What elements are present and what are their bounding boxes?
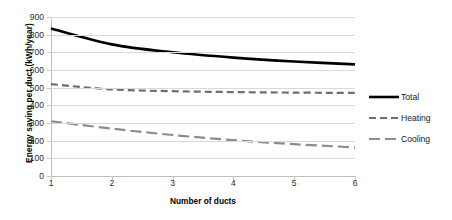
y-tick-label: 400 <box>30 100 44 110</box>
legend-swatch-icon <box>369 113 399 123</box>
line-chart: Energy saving per duct (kWh/year) 010020… <box>0 0 452 220</box>
legend-item-cooling[interactable]: Cooling <box>369 128 452 149</box>
x-tick-label: 2 <box>109 178 114 188</box>
y-tick-label: 500 <box>30 83 44 93</box>
gridline <box>51 123 355 124</box>
gridline <box>51 141 355 142</box>
y-tickmark <box>47 52 51 53</box>
gridline <box>51 70 355 71</box>
y-tick-label: 700 <box>30 47 44 57</box>
legend-label: Total <box>401 92 419 102</box>
gridline <box>51 17 355 18</box>
plot-area <box>51 17 355 176</box>
y-tickmark <box>47 88 51 89</box>
y-tickmark <box>47 35 51 36</box>
y-tick-label: 200 <box>30 136 44 146</box>
gridline <box>51 158 355 159</box>
y-tickmark <box>47 105 51 106</box>
y-tickmark <box>47 123 51 124</box>
y-tickmark <box>47 158 51 159</box>
y-tick-label: 800 <box>30 30 44 40</box>
legend-swatch-icon <box>369 92 399 102</box>
y-tick-label: 600 <box>30 65 44 75</box>
legend-item-heating[interactable]: Heating <box>369 107 452 128</box>
y-tickmark <box>47 17 51 18</box>
legend-swatch-icon <box>369 134 399 144</box>
x-tick-label: 1 <box>49 178 54 188</box>
gridline <box>51 35 355 36</box>
x-axis-line <box>51 176 355 177</box>
y-tickmark <box>47 70 51 71</box>
series-line-cooling <box>51 121 355 147</box>
y-tick-label: 100 <box>30 153 44 163</box>
legend-label: Heating <box>401 113 431 123</box>
x-axis-tick-labels: 123456 <box>0 178 452 194</box>
y-tick-label: 900 <box>30 12 44 22</box>
x-tick-label: 6 <box>353 178 358 188</box>
gridline <box>51 52 355 53</box>
series-layer <box>51 17 355 176</box>
legend-item-total[interactable]: Total <box>369 86 452 107</box>
y-tick-label: 300 <box>30 118 44 128</box>
x-tick-label: 3 <box>170 178 175 188</box>
x-axis-title: Number of ducts <box>51 196 355 206</box>
y-tickmark <box>47 141 51 142</box>
x-tick-label: 4 <box>231 178 236 188</box>
legend-label: Cooling <box>401 134 430 144</box>
gridline <box>51 105 355 106</box>
gridline <box>51 88 355 89</box>
x-tick-label: 5 <box>292 178 297 188</box>
chart-legend: TotalHeatingCooling <box>369 86 452 149</box>
